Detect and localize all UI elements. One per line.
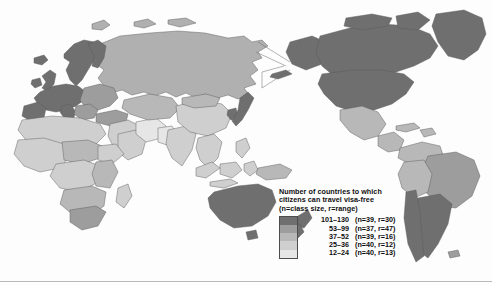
legend-color-ramp [279, 216, 298, 259]
legend-labels: 101–130 (n=39, r=30) 53–99 (n=37, r=47) … [303, 216, 395, 259]
figure-bottom-rule [0, 281, 492, 282]
region-russia [96, 31, 268, 99]
legend-swatch-class-5 [280, 250, 297, 258]
legend-range-class-5: 12–24 [303, 248, 349, 257]
figure-world-visa-free-map: Number of countries to which citizens ca… [0, 0, 492, 286]
region-tasmania [246, 230, 258, 240]
legend-row: 12–24 (n=40, r=13) [303, 249, 395, 257]
legend-title-line-3: (n=class size, r=range) [279, 205, 429, 213]
legend-entries: 101–130 (n=39, r=30) 53–99 (n=37, r=47) … [279, 216, 429, 259]
legend-swatch-class-3 [280, 233, 297, 241]
map-legend: Number of countries to which citizens ca… [279, 188, 429, 259]
legend-swatch-class-1 [280, 217, 297, 225]
legend-stats-class-5: (n=40, r=13) [355, 248, 395, 257]
legend-swatch-class-4 [280, 241, 297, 249]
legend-swatch-class-2 [280, 225, 297, 233]
